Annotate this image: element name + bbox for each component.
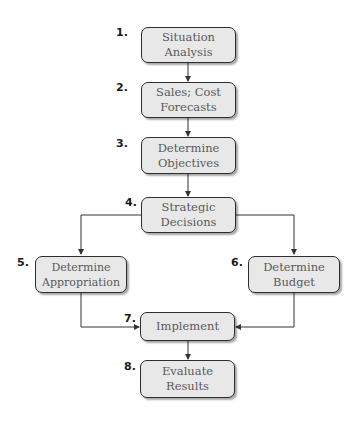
step-8-line2: Results (162, 379, 213, 394)
step-4-number: 4. (125, 196, 137, 209)
step-6-number: 6. (231, 256, 243, 269)
step-5-number: 5. (17, 256, 29, 269)
step-4-line2: Decisions (161, 215, 217, 230)
step-8-box: EvaluateResults (140, 360, 235, 398)
step-4-box: StrategicDecisions (141, 197, 236, 233)
step-2-line2: Forecasts (156, 100, 221, 115)
edge-4-6 (236, 215, 294, 254)
step-4-line1: Strategic (161, 200, 217, 215)
edge-4-5 (81, 215, 141, 254)
step-2-line1: Sales; Cost (156, 85, 221, 100)
step-2-box: Sales; CostForecasts (141, 82, 236, 118)
step-8-line1: Evaluate (162, 364, 213, 379)
step-5-line2: Appropriation (42, 275, 120, 290)
step-1-box: SituationAnalysis (141, 27, 236, 63)
step-6-box: DetermineBudget (248, 256, 340, 293)
step-1-number: 1. (116, 26, 128, 39)
step-3-number: 3. (116, 137, 128, 150)
step-7-line1: Implement (156, 319, 219, 334)
edge-6-7 (236, 292, 294, 327)
step-1-line2: Analysis (162, 45, 215, 60)
step-1-line1: Situation (162, 30, 215, 45)
step-2-number: 2. (116, 81, 128, 94)
step-6-line2: Budget (263, 275, 325, 290)
step-5-box: DetermineAppropriation (35, 256, 127, 293)
step-5-line1: Determine (42, 260, 120, 275)
step-3-box: DetermineObjectives (141, 137, 236, 174)
step-7-number: 7. (124, 312, 136, 325)
step-8-number: 8. (124, 360, 136, 373)
step-7-box: Implement (140, 312, 235, 341)
step-3-line1: Determine (158, 141, 220, 156)
step-6-line1: Determine (263, 260, 325, 275)
step-3-line2: Objectives (158, 156, 220, 171)
